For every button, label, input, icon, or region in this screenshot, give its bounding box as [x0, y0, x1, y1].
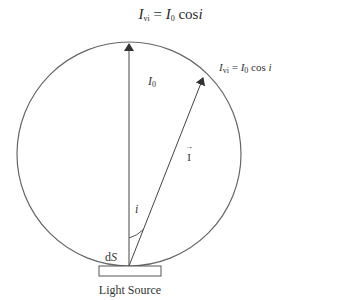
- ds-label: dS: [105, 250, 117, 265]
- ivi-equals: =: [232, 61, 238, 73]
- ivi-sub: vi: [223, 66, 229, 75]
- vector-i-symbol: I: [185, 150, 193, 160]
- ds-s: S: [111, 250, 117, 264]
- ivi-label: Ivi = I0 cos i: [219, 61, 272, 75]
- ivi-var: i: [268, 61, 271, 73]
- angle-label: i: [135, 202, 138, 217]
- vector-arrow-icon: →: [185, 144, 193, 150]
- i0-label: I0: [148, 74, 156, 89]
- vector-i-label: → I: [185, 144, 193, 160]
- light-source-box: [99, 266, 161, 276]
- light-source-label: Light Source: [90, 283, 170, 298]
- ivi-cos: cos: [251, 61, 266, 73]
- ivi-arrow: [129, 78, 203, 266]
- diagram-canvas: [0, 0, 341, 300]
- i0-sub: 0: [152, 80, 156, 89]
- ivi-rhs-sub: 0: [244, 66, 248, 75]
